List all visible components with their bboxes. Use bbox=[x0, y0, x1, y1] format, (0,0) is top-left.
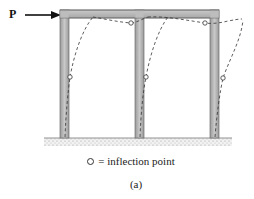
inflection-point-icon bbox=[203, 21, 207, 25]
inflection-point-icon bbox=[221, 76, 225, 80]
frame bbox=[60, 10, 219, 138]
inflection-point-icon bbox=[68, 75, 72, 79]
legend-text: = inflection point bbox=[98, 155, 174, 167]
column-middle bbox=[135, 10, 144, 138]
legend: = inflection point bbox=[0, 155, 254, 167]
load-label: P bbox=[9, 7, 16, 22]
load-arrow bbox=[25, 11, 61, 19]
ground-support bbox=[44, 138, 232, 146]
ground-hatching bbox=[44, 138, 232, 146]
figure-caption: (a) bbox=[0, 178, 254, 190]
inflection-point-icon bbox=[144, 75, 148, 79]
inflection-point-icon bbox=[129, 21, 133, 25]
inflection-point-legend-icon bbox=[87, 158, 94, 165]
inflection-points bbox=[68, 21, 225, 80]
column-right bbox=[210, 10, 219, 138]
arrowhead-icon bbox=[51, 11, 61, 19]
column-left bbox=[60, 10, 69, 138]
portal-frame-diagram bbox=[0, 0, 254, 199]
